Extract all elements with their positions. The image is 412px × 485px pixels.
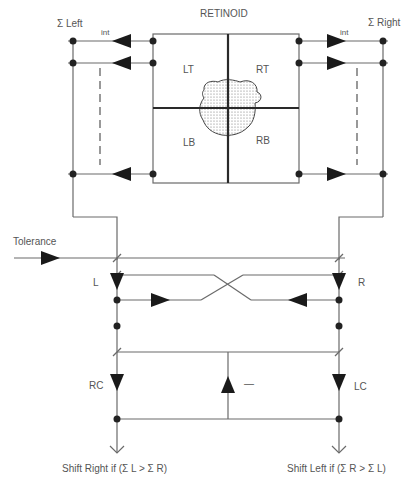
integrator-arrow-left-1 — [112, 34, 131, 48]
quadrant-lt-label: LT — [183, 64, 194, 75]
quadrant-lb-label: LB — [183, 137, 196, 148]
integrator-arrow-right-2 — [327, 56, 346, 70]
lc-arrow — [332, 374, 346, 391]
r-label: R — [358, 277, 365, 288]
quadrant-rt-label: RT — [256, 64, 269, 75]
right-summing-bus — [296, 34, 389, 260]
sum-left-label: Σ Left — [57, 18, 83, 29]
r-arrow — [332, 273, 346, 290]
rc-arrow — [110, 374, 124, 391]
left-summing-bus — [68, 34, 157, 260]
int-right-label: int — [340, 28, 349, 37]
comparator-section — [110, 254, 346, 453]
tolerance-label: Tolerance — [13, 236, 57, 247]
rc-label: RC — [89, 380, 103, 391]
integrator-arrow-right-3 — [327, 167, 346, 181]
tolerance-input — [14, 251, 345, 265]
target-blob — [198, 78, 262, 137]
l-arrow — [110, 273, 124, 290]
quadrant-rb-label: RB — [256, 135, 270, 146]
l-to-r-arrow — [151, 293, 170, 307]
shift-left-label: Shift Left if (Σ R > Σ L) — [287, 463, 386, 474]
lc-label: LC — [354, 381, 367, 392]
integrator-arrow-left-3 — [112, 167, 131, 181]
minus-label: — — [244, 378, 254, 389]
retinoid-circuit-diagram: RETINOID LT RT LB RB Σ Left Σ Right int … — [0, 0, 412, 485]
shift-right-label: Shift Right if (Σ L > Σ R) — [62, 463, 167, 474]
integrator-arrow-left-2 — [112, 56, 131, 70]
int-left-label: int — [101, 28, 110, 37]
sum-right-label: Σ Right — [368, 17, 401, 28]
retinoid-title: RETINOID — [200, 8, 248, 19]
minus-arrow — [221, 376, 235, 393]
l-label: L — [93, 277, 99, 288]
r-to-l-arrow — [288, 293, 307, 307]
